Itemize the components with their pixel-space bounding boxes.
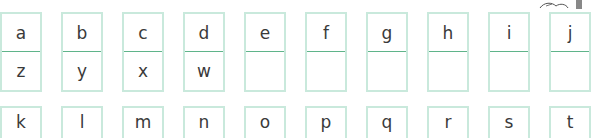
- letter-top: i: [490, 14, 528, 52]
- letter-top: g: [368, 14, 406, 52]
- letter-card: s: [488, 106, 530, 138]
- letter-card: n: [183, 106, 225, 138]
- letter-card: az: [0, 12, 42, 92]
- letter-bottom[interactable]: w: [185, 52, 223, 89]
- letter-card: r: [427, 106, 469, 138]
- letter-bottom[interactable]: [246, 52, 284, 89]
- letter-top: e: [246, 14, 284, 52]
- letter-card: dw: [183, 12, 225, 92]
- letter-bottom[interactable]: [429, 52, 467, 89]
- letter-top: q: [368, 108, 406, 138]
- letter-card: i: [488, 12, 530, 92]
- letter-bottom[interactable]: [551, 52, 589, 89]
- letter-card: q: [366, 106, 408, 138]
- cartoon-drawing-fragment: [538, 0, 586, 10]
- letter-card: cx: [122, 12, 164, 92]
- letter-top: o: [246, 108, 284, 138]
- letter-top: s: [490, 108, 528, 138]
- letter-card: h: [427, 12, 469, 92]
- letter-top: r: [429, 108, 467, 138]
- letter-top: k: [2, 108, 40, 138]
- letter-card: p: [305, 106, 347, 138]
- letter-card: f: [305, 12, 347, 92]
- letter-top: f: [307, 14, 345, 52]
- letter-top: h: [429, 14, 467, 52]
- letter-card: g: [366, 12, 408, 92]
- letter-top: j: [551, 14, 589, 52]
- letter-card: m: [122, 106, 164, 138]
- letter-card: l: [61, 106, 103, 138]
- letter-top: d: [185, 14, 223, 52]
- letter-bottom[interactable]: [307, 52, 345, 89]
- letter-card: by: [61, 12, 103, 92]
- letter-top: l: [63, 108, 101, 138]
- letter-card: t: [549, 106, 591, 138]
- letter-top: a: [2, 14, 40, 52]
- letter-bottom[interactable]: y: [63, 52, 101, 89]
- letter-top: n: [185, 108, 223, 138]
- letter-card: o: [244, 106, 286, 138]
- letter-top: t: [551, 108, 589, 138]
- letter-top: p: [307, 108, 345, 138]
- letter-top: c: [124, 14, 162, 52]
- letter-card: k: [0, 106, 42, 138]
- letter-bottom[interactable]: [368, 52, 406, 89]
- letter-card: e: [244, 12, 286, 92]
- letter-bottom[interactable]: z: [2, 52, 40, 89]
- letter-top: m: [124, 108, 162, 138]
- letter-top: b: [63, 14, 101, 52]
- letter-bottom[interactable]: x: [124, 52, 162, 89]
- letter-card: j: [549, 12, 591, 92]
- letter-bottom[interactable]: [490, 52, 528, 89]
